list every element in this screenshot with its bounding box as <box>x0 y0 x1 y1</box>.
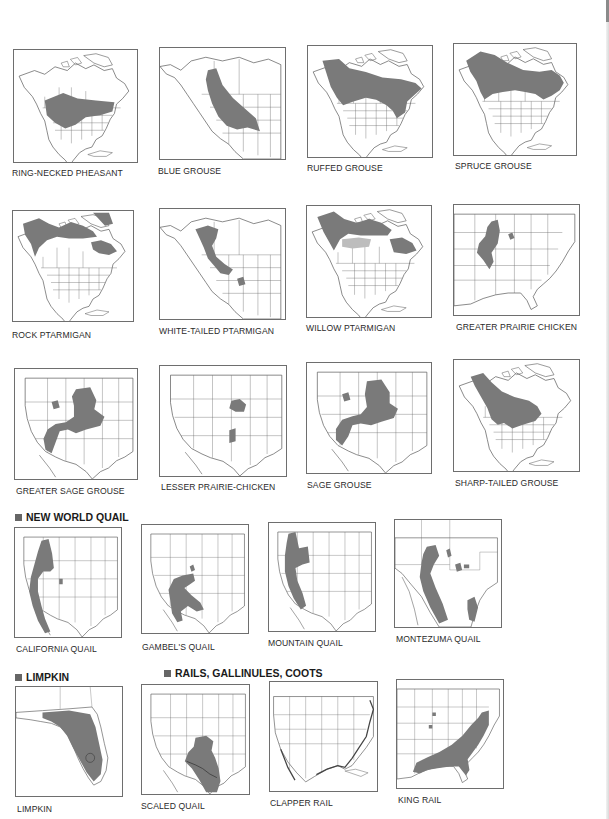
map-caption: LIMPKIN <box>17 804 52 814</box>
range-map <box>12 210 134 322</box>
section-title: LIMPKIN <box>26 671 69 683</box>
range-map <box>268 522 376 632</box>
map-caption: KING RAIL <box>398 795 441 805</box>
map-caption: MONTEZUMA QUAIL <box>396 634 481 644</box>
map-caption: SCALED QUAIL <box>141 801 205 811</box>
square-bullet-icon <box>15 674 22 681</box>
range-map <box>141 684 250 795</box>
range-map <box>453 359 580 472</box>
range-map <box>15 686 123 797</box>
map-caption: GREATER PRAIRIE CHICKEN <box>456 322 577 332</box>
map-caption: WILLOW PTARMIGAN <box>306 323 395 333</box>
section-title: NEW WORLD QUAIL <box>26 511 129 523</box>
range-map <box>307 45 433 158</box>
range-map <box>159 47 286 160</box>
map-caption: RING-NECKED PHEASANT <box>12 168 123 178</box>
range-map <box>453 43 577 156</box>
square-bullet-icon <box>15 514 22 521</box>
map-caption: WHITE-TAILED PTARMIGAN <box>159 326 274 336</box>
map-caption: SPRUCE GROUSE <box>455 161 532 171</box>
map-caption: SHARP-TAILED GROUSE <box>455 478 558 488</box>
map-caption: BLUE GROUSE <box>158 166 221 176</box>
map-caption: SAGE GROUSE <box>307 480 372 490</box>
range-map <box>13 49 138 163</box>
range-map <box>453 204 580 316</box>
range-map <box>269 681 378 792</box>
map-caption: ROCK PTARMIGAN <box>12 330 91 340</box>
section-header-rails-gallinules-coots: RAILS, GALLINULES, COOTS <box>164 667 323 679</box>
square-bullet-icon <box>164 670 171 677</box>
map-caption: GREATER SAGE GROUSE <box>16 486 125 496</box>
section-title: RAILS, GALLINULES, COOTS <box>175 667 323 679</box>
map-caption: CALIFORNIA QUAIL <box>16 644 97 654</box>
map-caption: LESSER PRAIRIE-CHICKEN <box>161 482 275 492</box>
map-caption: MOUNTAIN QUAIL <box>268 638 343 648</box>
range-map <box>159 365 287 477</box>
range-map <box>394 519 502 628</box>
range-map <box>14 527 122 638</box>
range-map <box>159 208 286 320</box>
range-map <box>141 524 249 634</box>
section-header-limpkin: LIMPKIN <box>15 671 69 683</box>
map-caption: RUFFED GROUSE <box>307 163 383 173</box>
map-caption: CLAPPER RAIL <box>270 798 333 808</box>
range-map <box>396 679 504 789</box>
map-caption: GAMBEL'S QUAIL <box>142 642 215 652</box>
range-map <box>306 362 432 474</box>
range-map <box>14 368 138 480</box>
range-map <box>306 205 432 318</box>
section-header-new-world-quail: NEW WORLD QUAIL <box>15 511 129 523</box>
